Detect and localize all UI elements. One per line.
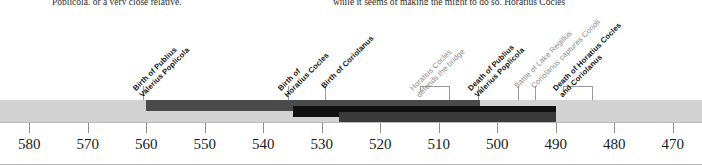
top-text-right: while it seems of making the might to do… bbox=[333, 0, 565, 5]
axis-tick-label: 520 bbox=[369, 136, 392, 153]
top-text-left: Poplicola, or a very close relative. bbox=[52, 0, 182, 5]
axis-tick bbox=[673, 123, 674, 133]
event-label-birth-coriolanus: Birth of Coriolanus bbox=[320, 35, 376, 91]
axis-tick bbox=[556, 123, 557, 133]
axis-tick bbox=[497, 123, 498, 133]
timeline-figure: Poplicola, or a very close relative. whi… bbox=[0, 0, 702, 165]
axis-tick-label: 470 bbox=[662, 136, 685, 153]
axis-tick bbox=[439, 123, 440, 133]
event-label-birth-horatius-cocles: Birth ofHoratius Cocles bbox=[277, 45, 331, 99]
axis-tick bbox=[29, 123, 30, 133]
axis-tick-label: 550 bbox=[194, 136, 217, 153]
event-label-horatius-cocles-defends-the-bridge: Horatius Coclesdefends the bridge bbox=[409, 41, 467, 99]
axis-tick bbox=[205, 123, 206, 133]
axis-tick-label: 500 bbox=[486, 136, 509, 153]
axis-box bbox=[0, 122, 702, 165]
leader-line bbox=[592, 86, 593, 100]
axis-tick bbox=[146, 123, 147, 133]
axis-tick-label: 490 bbox=[545, 136, 568, 153]
axis-tick-label: 580 bbox=[18, 136, 41, 153]
leader-line bbox=[449, 86, 450, 100]
axis-tick-label: 560 bbox=[135, 136, 158, 153]
axis-tick-label: 530 bbox=[311, 136, 334, 153]
axis-tick-label: 480 bbox=[603, 136, 626, 153]
axis-tick bbox=[322, 123, 323, 133]
axis-tick bbox=[88, 123, 89, 133]
axis-tick-label: 540 bbox=[252, 136, 275, 153]
axis-tick bbox=[614, 123, 615, 133]
axis-tick bbox=[263, 123, 264, 133]
event-label-birth-publius-valerius-poplicola: Birth of PubliusValerius Poplicola bbox=[132, 40, 191, 99]
event-label-line1: Birth of Coriolanus bbox=[319, 34, 375, 90]
axis-tick-label: 510 bbox=[428, 136, 451, 153]
axis-tick-label: 570 bbox=[77, 136, 100, 153]
axis-tick bbox=[380, 123, 381, 133]
